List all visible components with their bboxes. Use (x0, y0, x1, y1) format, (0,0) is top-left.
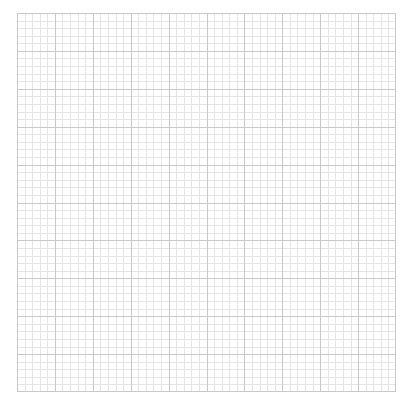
graph-paper-grid (17, 13, 396, 392)
page-canvas (0, 0, 413, 405)
